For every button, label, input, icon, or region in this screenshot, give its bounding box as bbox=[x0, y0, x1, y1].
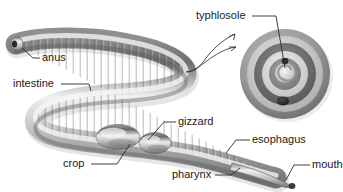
leader-mouth-down bbox=[286, 165, 294, 180]
label-crop: crop bbox=[63, 158, 84, 169]
typhlosole-fold bbox=[282, 58, 289, 64]
label-intestine: intestine bbox=[13, 78, 54, 89]
mouth-opening bbox=[289, 183, 296, 189]
label-esophagus: esophagus bbox=[252, 134, 306, 145]
tail-tip bbox=[11, 37, 23, 51]
label-anus: anus bbox=[42, 52, 66, 63]
gizzard-bulge bbox=[139, 133, 171, 154]
label-typhlosole: typhlosole bbox=[196, 10, 246, 21]
label-gizzard: gizzard bbox=[178, 116, 213, 127]
ventral-vessel-spot bbox=[277, 96, 289, 105]
anus-opening bbox=[12, 40, 17, 47]
label-mouth: mouth bbox=[312, 159, 343, 170]
label-pharynx: pharynx bbox=[172, 169, 211, 180]
crop-bulge bbox=[96, 125, 140, 150]
intestine-cross-section bbox=[240, 29, 333, 122]
leader-esophagus bbox=[226, 140, 250, 153]
